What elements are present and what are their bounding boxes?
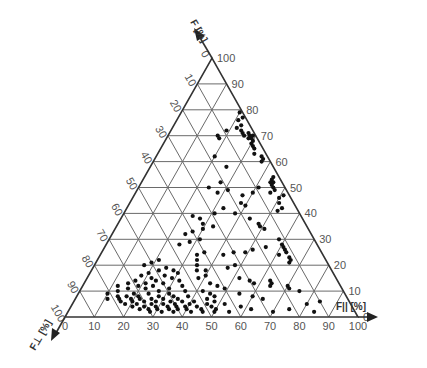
data-point	[186, 294, 190, 298]
tick-label-bottom: 90	[323, 320, 335, 332]
data-point	[201, 227, 205, 231]
data-point	[271, 310, 275, 314]
data-point	[161, 281, 165, 285]
data-point	[191, 229, 195, 233]
data-point	[180, 299, 184, 303]
data-point	[155, 307, 159, 311]
tick-label-right: 30	[319, 233, 331, 245]
tick-label-bottom: 40	[176, 320, 188, 332]
data-point	[258, 224, 262, 228]
data-point	[154, 279, 158, 283]
data-point	[201, 289, 205, 293]
data-point	[183, 289, 187, 293]
data-point	[211, 224, 215, 228]
data-point	[212, 294, 216, 298]
ternary-chart: 0001010102020203030304040405050506060607…	[0, 0, 427, 368]
data-point	[176, 307, 180, 311]
top-axis-label: F [%]	[188, 18, 210, 45]
data-point	[196, 276, 200, 280]
data-point	[204, 274, 208, 278]
data-point	[138, 307, 142, 311]
data-point	[170, 276, 174, 280]
data-point	[252, 152, 256, 156]
data-point	[116, 284, 120, 288]
data-point	[213, 154, 217, 158]
data-point	[136, 284, 140, 288]
data-point	[147, 271, 151, 275]
data-point	[221, 253, 225, 257]
data-point	[251, 191, 255, 195]
data-point	[224, 165, 228, 169]
data-point	[161, 297, 165, 301]
tick-label-bottom: 80	[293, 320, 305, 332]
data-point	[214, 307, 218, 311]
data-point	[142, 299, 146, 303]
data-point	[171, 268, 175, 272]
data-point	[216, 191, 220, 195]
data-point	[189, 310, 193, 314]
data-point	[147, 292, 151, 296]
data-point	[142, 305, 146, 309]
data-point	[116, 289, 120, 293]
data-point	[281, 193, 285, 197]
tick-labels: 0001010102020203030304040405050506060607…	[49, 48, 369, 332]
data-point	[287, 261, 291, 265]
grid-line-diagonal	[168, 136, 270, 317]
data-point	[195, 268, 199, 272]
tick-label-right: 50	[290, 182, 302, 194]
data-point	[261, 297, 265, 301]
data-point	[268, 191, 272, 195]
data-point	[240, 193, 244, 197]
data-point	[144, 281, 148, 285]
data-point	[195, 263, 199, 267]
data-point	[212, 299, 216, 303]
data-point	[176, 271, 180, 275]
data-point	[188, 240, 192, 244]
data-point	[205, 297, 209, 301]
data-point	[183, 232, 187, 236]
data-point	[238, 110, 242, 114]
data-point	[207, 185, 211, 189]
data-point	[177, 242, 181, 246]
data-point	[262, 227, 266, 231]
data-point	[318, 299, 322, 303]
data-point	[280, 206, 284, 210]
bottom-axis-label: F|| [%]	[336, 301, 366, 312]
data-point	[208, 281, 212, 285]
data-point	[154, 299, 158, 303]
data-point	[287, 307, 291, 311]
data-point	[151, 284, 155, 288]
data-point	[142, 263, 146, 267]
data-point	[205, 302, 209, 306]
data-point	[249, 307, 253, 311]
data-point	[126, 281, 130, 285]
data-point	[251, 294, 255, 298]
data-point	[161, 302, 165, 306]
data-point	[252, 281, 256, 285]
data-point	[195, 253, 199, 257]
tick-label-right: 100	[217, 52, 235, 64]
tick-label-right: 20	[334, 259, 346, 271]
data-point	[277, 253, 281, 257]
data-point	[202, 250, 206, 254]
data-point	[284, 250, 288, 254]
data-point	[164, 266, 168, 270]
data-point	[188, 302, 192, 306]
left-axis-arrowhead-icon	[51, 328, 60, 341]
data-point	[237, 292, 241, 296]
data-point	[105, 292, 109, 296]
data-point	[133, 279, 137, 283]
data-point	[208, 292, 212, 296]
data-point	[157, 258, 161, 262]
left-axis-label: F⊥ [%]	[27, 318, 53, 352]
data-point	[125, 294, 129, 298]
tick-label-bottom: 50	[205, 320, 217, 332]
data-point	[149, 276, 153, 280]
tick-label-bottom: 100	[349, 320, 367, 332]
data-point	[195, 305, 199, 309]
data-point	[243, 250, 247, 254]
data-point	[171, 294, 175, 298]
data-point	[226, 266, 230, 270]
data-point	[204, 268, 208, 272]
data-point	[239, 123, 243, 127]
